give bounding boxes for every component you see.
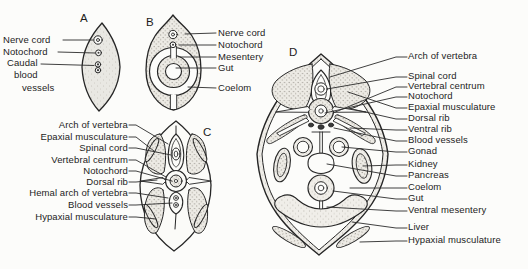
- c-spinal-cord: [172, 148, 180, 160]
- label-c-notochord: Notochord: [8, 166, 128, 176]
- panel-letter-a: A: [80, 12, 88, 24]
- figure-canvas: A B C D Nerve cord Notochord Caudal bloo…: [0, 0, 528, 269]
- a-nerve-cord-circle: [94, 36, 102, 44]
- label-a-nerve-cord: Nerve cord: [3, 35, 50, 45]
- label-c-epaxial-musculature: Epaxial musculature: [8, 132, 128, 142]
- label-c-hemal-arch-of-vertebra: Hemal arch of vertebra: [8, 188, 128, 198]
- label-d-gonad: Gonad: [408, 146, 437, 156]
- leader-d-liver: [352, 222, 407, 228]
- d-pancreas: [308, 153, 334, 174]
- panel-c-drawing: [140, 121, 211, 251]
- d-blood-vessel-mid: [318, 125, 324, 130]
- d-notochord: [315, 105, 327, 117]
- label-d-kidney: Kidney: [408, 159, 438, 169]
- panel-letter-c: C: [203, 126, 211, 138]
- label-b-mesentery: Mesentery: [218, 52, 263, 62]
- label-c-blood-vessels: Blood vessels: [8, 200, 128, 210]
- b-gut-lumen: [166, 64, 182, 80]
- d-blood-vessel-right: [328, 123, 333, 127]
- label-d-ventral-mesentery: Ventral mesentery: [408, 205, 486, 215]
- label-a-caudal-line1: Caudal: [7, 58, 38, 68]
- label-d-gut: Gut: [408, 193, 424, 203]
- b-mesentery-slot: [171, 47, 177, 59]
- d-spinal-cord: [315, 83, 327, 95]
- a-caudal-vessel-lower-dot: [97, 69, 99, 71]
- a-caudal-vessel-upper-dot: [97, 63, 99, 65]
- panel-a-drawing: [82, 23, 120, 111]
- b-notochord-dot: [172, 44, 174, 46]
- b-nerve-cord-circle: [169, 30, 177, 38]
- label-c-vertebral-centrum: Vertebral centrum: [8, 155, 128, 165]
- label-d-arch-of-vertebra: Arch of vertebra: [408, 51, 477, 61]
- label-d-hypaxial-musculature: Hypaxial musculature: [408, 235, 501, 245]
- label-d-pancreas: Pancreas: [408, 170, 449, 180]
- d-gonad-left-core: [297, 141, 309, 153]
- label-d-ventral-rib: Ventral rib: [408, 124, 452, 134]
- label-b-gut: Gut: [218, 63, 234, 73]
- c-blood-vessel-upper-dot: [175, 197, 177, 199]
- label-c-arch-of-vertebra: Arch of vertebra: [8, 120, 128, 130]
- a-notochord-dot: [98, 52, 100, 54]
- label-b-nerve-cord: Nerve cord: [218, 28, 265, 38]
- label-a-notochord: Notochord: [3, 47, 48, 57]
- d-blood-vessel-left: [308, 123, 313, 127]
- label-d-epaxial-musculature: Epaxial musculature: [408, 102, 495, 112]
- label-a-caudal-line3: vessels: [22, 83, 54, 93]
- panel-letter-d: D: [289, 46, 297, 58]
- c-notochord-core: [174, 179, 177, 182]
- a-body-outline: [82, 23, 120, 111]
- label-c-hypaxial-musculature: Hypaxial musculature: [8, 212, 128, 222]
- panel-letter-b: B: [146, 16, 154, 28]
- label-d-notochord: Notochord: [408, 91, 453, 101]
- d-epaxial-left: [272, 64, 313, 109]
- leader-d-hypaxial: [360, 241, 407, 242]
- panel-d-drawing: [257, 54, 388, 255]
- label-d-dorsal-rib: Dorsal rib: [408, 113, 450, 123]
- b-ventral-slot: [170, 95, 176, 109]
- label-d-blood-vessels: Blood vessels: [408, 135, 468, 145]
- d-gut-lumen: [315, 182, 328, 195]
- label-d-liver: Liver: [408, 222, 429, 232]
- label-b-notochord: Notochord: [218, 40, 263, 50]
- panel-b-drawing: [146, 15, 201, 110]
- c-blood-vessel-lower-dot: [175, 204, 177, 206]
- label-d-coelom: Coelom: [408, 182, 441, 192]
- label-c-dorsal-rib: Dorsal rib: [8, 177, 128, 187]
- label-b-coelom: Coelom: [218, 83, 251, 93]
- label-a-caudal-line2: blood: [14, 70, 38, 80]
- label-c-spinal-cord: Spinal cord: [8, 143, 128, 153]
